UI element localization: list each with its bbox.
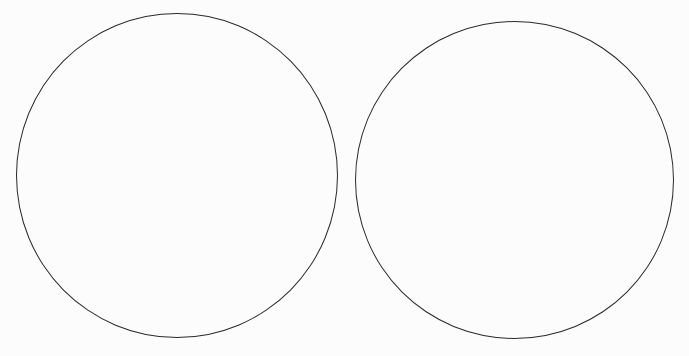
left-circle [16,13,338,338]
worksheet-page [0,0,689,356]
right-circle [355,21,674,339]
left-circle-label [17,14,18,15]
right-circle-label [356,22,357,23]
